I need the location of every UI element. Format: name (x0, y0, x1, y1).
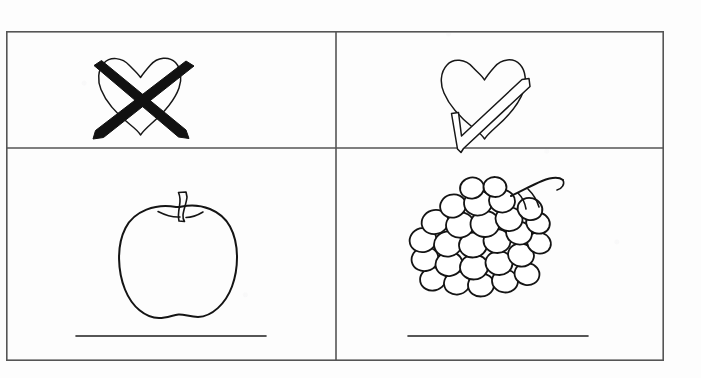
cell-dislike-key[interactable] (7, 32, 336, 148)
cell-apple[interactable] (7, 149, 336, 360)
worksheet-page: Fruit preference worksheet (0, 0, 701, 378)
worksheet-table (6, 31, 664, 361)
worksheet-table-svg (6, 31, 664, 361)
cell-like-hitarea[interactable] (337, 32, 663, 148)
grape-berry (483, 176, 507, 198)
page-title: Fruit preference worksheet (0, 21, 1, 22)
cell-like-key[interactable] (337, 32, 663, 153)
cell-grapes[interactable] (337, 149, 663, 360)
cell-apple-hitarea[interactable] (7, 149, 336, 360)
